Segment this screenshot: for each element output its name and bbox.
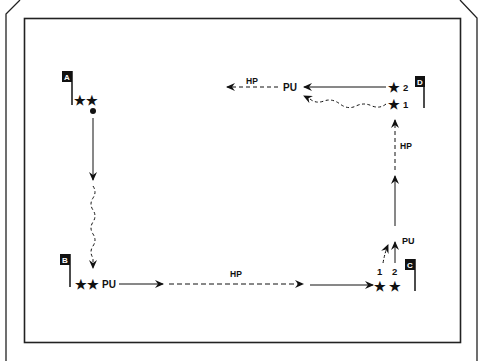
station-d-flag: D xyxy=(415,76,425,108)
station-a-players-icon: ★★ xyxy=(74,93,98,108)
station-c-player-1-icon: ★ xyxy=(374,279,386,294)
station-c-label: C xyxy=(407,261,413,270)
d-hp-label: HP xyxy=(246,76,258,86)
station-b-label: B xyxy=(62,256,68,265)
jog-arrow-a-b xyxy=(91,186,95,268)
station-d-player-2-icon: ★ xyxy=(388,80,400,95)
b-c-hp-label: HP xyxy=(230,269,242,279)
jog-arrow-d-player1 xyxy=(304,96,386,108)
station-a-label: A xyxy=(64,73,70,82)
station-c-player-2-label: 2 xyxy=(392,266,397,277)
c-d-hp-label: HP xyxy=(400,141,412,151)
station-d-label: D xyxy=(417,78,423,87)
station-c-pu-label: PU xyxy=(402,236,415,246)
station-c-flag: C xyxy=(405,259,415,291)
station-d-player-2-label: 2 xyxy=(403,82,408,93)
station-c-player-1-label: 1 xyxy=(377,266,383,277)
ball-icon xyxy=(90,108,96,114)
station-c-player-2-icon: ★ xyxy=(389,279,401,294)
station-b-flag: B xyxy=(60,254,70,287)
station-d-player-1-icon: ★ xyxy=(388,97,400,112)
station-d-player-1-label: 1 xyxy=(403,99,409,110)
outer-frame xyxy=(6,0,477,361)
station-a-flag: A xyxy=(62,71,72,105)
station-d-pu-label: PU xyxy=(283,82,297,93)
hp-arrow-c-player1 xyxy=(383,245,388,263)
station-b-players-icon: ★★ xyxy=(75,277,99,292)
drill-diagram: A ★★ B ★★ PU HP ★ ★ 1 2 C PU HP ★ 2 ★ 1 … xyxy=(0,0,479,361)
station-b-pu-label: PU xyxy=(102,279,116,290)
